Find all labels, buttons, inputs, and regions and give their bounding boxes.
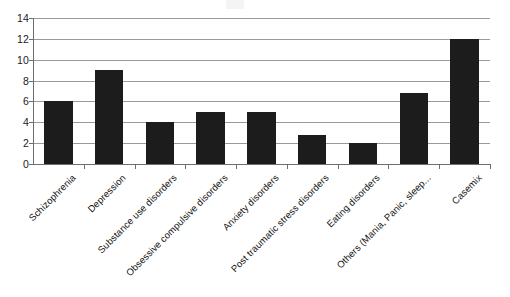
y-tick-label: 4 [23, 116, 29, 128]
x-axis-line [33, 164, 490, 165]
bar[interactable] [196, 112, 224, 164]
bar-slot [236, 18, 287, 164]
bar-slot [439, 18, 490, 164]
bar[interactable] [146, 122, 174, 164]
x-axis-label: Others (Mania, Panic, sleep... [334, 172, 432, 270]
bar-chart: 02468101214 SchizophreniaDepressionSubst… [0, 0, 510, 297]
plot-area: 02468101214 [33, 18, 490, 164]
bar[interactable] [400, 93, 428, 164]
bar-slot [287, 18, 338, 164]
x-axis-label: Eating disorders [325, 172, 382, 229]
x-axis-label: Obsessive compulsive disorders [123, 172, 229, 278]
x-axis-labels: SchizophreniaDepressionSubstance use dis… [33, 172, 490, 297]
bar[interactable] [44, 101, 72, 164]
bar-slot [135, 18, 186, 164]
bar[interactable] [450, 39, 478, 164]
y-tick-label: 0 [23, 158, 29, 170]
bar[interactable] [349, 143, 377, 164]
x-tick-mark [490, 164, 491, 169]
bar-slot [185, 18, 236, 164]
x-axis-label: Schizophrenia [26, 172, 77, 223]
y-tick-label: 6 [23, 95, 29, 107]
y-tick-label: 12 [17, 33, 29, 45]
bar-slot [33, 18, 84, 164]
x-axis-label: Post traumatic stress disorders [229, 172, 331, 274]
y-tick-label: 10 [17, 54, 29, 66]
bar-slot [84, 18, 135, 164]
y-tick-label: 2 [23, 137, 29, 149]
bar[interactable] [95, 70, 123, 164]
bar[interactable] [247, 112, 275, 164]
scan-artifact [226, 0, 244, 9]
bar-slot [338, 18, 389, 164]
x-axis-label: Depression [86, 172, 128, 214]
x-axis-label: Casemix [449, 172, 483, 206]
y-axis-line [33, 18, 34, 164]
bar[interactable] [298, 135, 326, 164]
y-tick-label: 14 [17, 12, 29, 24]
y-tick-label: 8 [23, 75, 29, 87]
bar-slot [388, 18, 439, 164]
